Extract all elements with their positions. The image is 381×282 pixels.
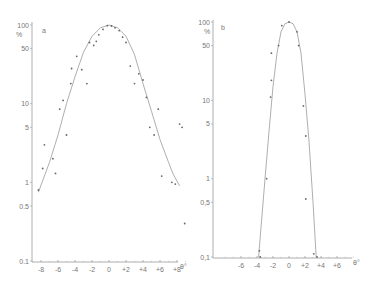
- svg-text:1: 1: [25, 179, 29, 186]
- svg-text:-6: -6: [238, 262, 244, 269]
- svg-text:+6: +6: [333, 262, 341, 269]
- svg-text:-4: -4: [72, 266, 78, 273]
- panel-label: a: [42, 27, 46, 34]
- svg-text:0.1: 0.1: [19, 258, 29, 265]
- svg-text:10: 10: [202, 97, 210, 104]
- svg-text:-2: -2: [89, 266, 95, 273]
- data-points: [38, 25, 186, 225]
- svg-text:-4: -4: [254, 262, 260, 269]
- svg-text:+2: +2: [301, 262, 309, 269]
- svg-text:0,1: 0,1: [200, 254, 210, 261]
- svg-text:50: 50: [202, 42, 210, 49]
- svg-text:100: 100: [198, 19, 210, 26]
- svg-text:0,5: 0,5: [200, 199, 210, 206]
- svg-text:100: 100: [17, 22, 29, 29]
- svg-text:-6: -6: [55, 266, 61, 273]
- y-tick-labels: 1005010510.50.1: [17, 22, 32, 265]
- x-axis-label: θ°: [180, 263, 187, 270]
- svg-text:1: 1: [206, 175, 210, 182]
- svg-text:+4: +4: [139, 266, 147, 273]
- svg-text:+2: +2: [122, 266, 130, 273]
- y-tick-labels: 1005010510,50,1: [198, 19, 213, 261]
- y-unit-label: %: [16, 31, 22, 38]
- panel-b-chart: b % 1005010510,50,1 -6-4-20+2+4+6 θ°: [198, 19, 360, 270]
- x-axis-label: θ°: [353, 259, 360, 266]
- svg-text:-8: -8: [38, 266, 44, 273]
- svg-text:0: 0: [107, 266, 111, 273]
- svg-text:5: 5: [25, 124, 29, 131]
- svg-text:0.5: 0.5: [19, 203, 29, 210]
- svg-text:+4: +4: [317, 262, 325, 269]
- y-unit-label: %: [204, 28, 210, 35]
- figure: a % 1005010510.50.1 -8-6-4-20+2+4+6+8 θ°…: [0, 0, 381, 282]
- panel-a-chart: a % 1005010510.50.1 -8-6-4-20+2+4+6+8 θ°: [16, 22, 187, 274]
- svg-text:10: 10: [21, 100, 29, 107]
- svg-text:-2: -2: [270, 262, 276, 269]
- svg-text:50: 50: [21, 45, 29, 52]
- panel-label: b: [221, 24, 225, 31]
- fit-curve: [259, 22, 317, 257]
- svg-text:+6: +6: [156, 266, 164, 273]
- svg-text:5: 5: [206, 120, 210, 127]
- svg-text:0: 0: [287, 262, 291, 269]
